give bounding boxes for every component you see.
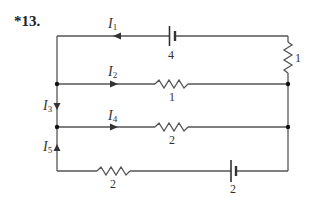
arrow-left-icon-i1 xyxy=(113,33,121,40)
resistor-bottom-value: 2 xyxy=(110,178,116,190)
current-label-i1: I1 xyxy=(108,17,117,32)
resistor-branch4-value: 2 xyxy=(169,134,175,146)
current-label-i3: I3 xyxy=(43,99,52,114)
problem-number: *13. xyxy=(14,14,40,29)
resistor-right-zigzag xyxy=(284,42,292,73)
battery-bottom-value: 2 xyxy=(230,183,236,195)
node-right-branch4 xyxy=(286,125,290,129)
current-label-i4: I4 xyxy=(108,109,117,124)
arrow-right-icon-i2 xyxy=(110,81,118,88)
resistor-branch2-zigzag xyxy=(155,80,188,88)
node-right-branch2 xyxy=(286,82,290,86)
node-left-branch4 xyxy=(55,125,59,129)
arrow-down-icon-i3 xyxy=(54,103,61,110)
resistor-branch2-value: 1 xyxy=(169,91,175,103)
resistor-bottom-zigzag xyxy=(97,167,130,175)
resistor-branch4-zigzag xyxy=(155,123,188,131)
current-label-i2: I2 xyxy=(108,65,117,80)
arrow-up-icon-i5 xyxy=(54,144,61,151)
circuit-diagram: *13. I1 I2 I3 I4 I5 4 1 1 2 2 2 xyxy=(0,0,310,197)
resistor-right-value: 1 xyxy=(295,52,301,64)
current-label-i5: I5 xyxy=(43,140,52,155)
arrow-right-icon-i4 xyxy=(110,124,118,131)
node-left-branch2 xyxy=(55,82,59,86)
battery-top-value: 4 xyxy=(168,49,174,61)
